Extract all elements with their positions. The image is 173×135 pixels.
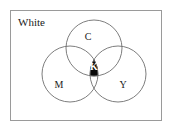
venn-diagram-container: White C M Y K (0, 0, 173, 135)
label-magenta: M (55, 79, 64, 90)
label-cyan: C (85, 31, 92, 42)
label-yellow: Y (119, 79, 126, 90)
label-white: White (18, 16, 45, 28)
label-key-black: K (90, 61, 98, 72)
venn-diagram-svg: White C M Y K (0, 0, 173, 135)
